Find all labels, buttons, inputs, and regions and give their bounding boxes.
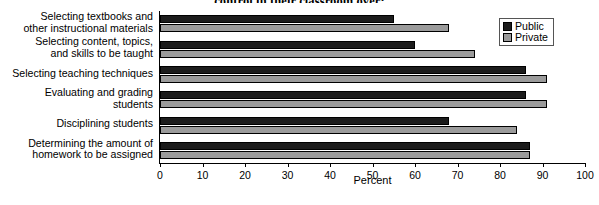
x-tick-mark-60 xyxy=(415,163,416,167)
chart-title: control in their classroom over: xyxy=(0,0,599,3)
x-tick-mark-40 xyxy=(330,163,331,167)
bar-public-3 xyxy=(160,91,526,99)
bar-private-1 xyxy=(160,50,475,58)
x-tick-mark-50 xyxy=(373,163,374,167)
x-tick-mark-90 xyxy=(543,163,544,167)
private-swatch-icon xyxy=(503,33,512,42)
x-tick-mark-100 xyxy=(585,163,586,167)
bar-public-4 xyxy=(160,117,449,125)
category-label-0: Selecting textbooks and other instructio… xyxy=(23,11,153,34)
chart-legend: PublicPrivate xyxy=(499,18,554,46)
x-tick-mark-70 xyxy=(458,163,459,167)
x-axis-title: Percent xyxy=(160,174,585,186)
x-tick-mark-0 xyxy=(160,163,161,167)
category-label-3: Evaluating and grading students xyxy=(45,87,153,110)
legend-label-private: Private xyxy=(515,32,548,43)
category-label-5: Determining the amount of homework to be… xyxy=(28,138,153,161)
category-axis-labels: Selecting textbooks and other instructio… xyxy=(0,11,157,163)
category-label-4: Disciplining students xyxy=(56,118,153,130)
bar-public-5 xyxy=(160,142,530,150)
public-swatch-icon xyxy=(503,22,512,31)
x-tick-mark-10 xyxy=(203,163,204,167)
bar-private-5 xyxy=(160,151,530,159)
bar-private-3 xyxy=(160,100,547,108)
bar-private-4 xyxy=(160,126,517,134)
x-tick-mark-30 xyxy=(288,163,289,167)
bar-chart: control in their classroom over: Selecti… xyxy=(0,0,599,205)
bar-private-2 xyxy=(160,75,547,83)
x-tick-mark-20 xyxy=(245,163,246,167)
bar-private-0 xyxy=(160,24,449,32)
x-tick-mark-80 xyxy=(500,163,501,167)
category-label-2: Selecting teaching techniques xyxy=(12,68,153,80)
category-label-1: Selecting content, topics, and skills to… xyxy=(35,36,153,59)
legend-item-private: Private xyxy=(503,32,548,43)
bar-public-2 xyxy=(160,66,526,74)
bar-public-0 xyxy=(160,15,394,23)
bar-public-1 xyxy=(160,41,415,49)
